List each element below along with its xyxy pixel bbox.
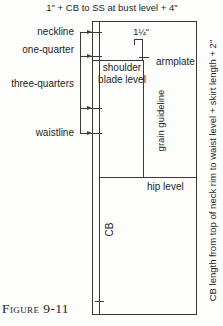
top-measurement-caption: 1" + CB to SS at bust level + 4" xyxy=(24,1,200,14)
arrowhead-icon xyxy=(87,131,92,135)
arrowhead-icon xyxy=(87,30,92,34)
one-quarter-label: one-quarter xyxy=(6,44,74,56)
pattern-draft-diagram: 1" + CB to SS at bust level + 4" necklin… xyxy=(0,0,223,326)
hip-level-line xyxy=(99,177,197,178)
arrowhead-icon xyxy=(87,54,92,58)
right-measurement-caption: CB length from top of neck rim to waist … xyxy=(206,22,219,320)
arrowhead-icon xyxy=(87,106,92,110)
armplate-label: armplate xyxy=(156,56,195,68)
grain-guideline-label: grain guideline xyxy=(154,79,167,163)
three-quarters-label: three-quarters xyxy=(4,78,74,90)
armplate-corner-tick xyxy=(139,57,149,58)
waistline-label: waistline xyxy=(22,127,74,139)
neckline-label: neckline xyxy=(24,26,74,38)
center-back-label: CB xyxy=(104,219,117,241)
shoulder-blade-level-line xyxy=(92,60,144,61)
left-measure-bracket xyxy=(80,32,81,133)
bottom-edge-tick xyxy=(95,301,104,302)
hip-level-label: hip level xyxy=(147,181,184,193)
figure-caption: Figure 9-11 xyxy=(2,301,69,317)
shoulder-blade-level-label: shoulder blade level xyxy=(97,62,147,86)
armplate-measurement-label: 1¼" xyxy=(127,27,155,38)
